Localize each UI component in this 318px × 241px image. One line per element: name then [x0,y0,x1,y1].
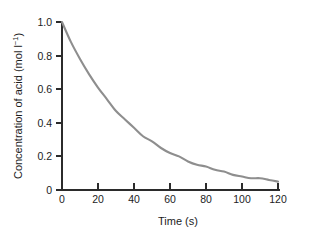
y-tick-label: 0 [46,184,52,196]
y-axis-title-tail: ) [12,33,24,37]
x-tick-label: 0 [59,193,65,205]
x-tick-label: 20 [92,193,104,205]
y-tick-label: 1.0 [37,16,52,28]
y-tick-label: 0.6 [37,83,52,95]
x-tick-label: 120 [269,193,287,205]
x-tick-label: 80 [200,193,212,205]
x-tick-label: 60 [164,193,176,205]
concentration-decay-chart: 0 20 40 60 80 100 120 0 0.2 0.4 0.6 0.8 … [0,0,318,241]
x-tick-label: 100 [233,193,251,205]
y-tick-label: 0.8 [37,50,52,62]
y-axis-title-main: Concentration of acid (mol l [12,45,24,179]
x-axis-title: Time (s) [158,215,198,227]
y-tick-label: 0.2 [37,150,52,162]
y-axis-title: Concentration of acid (mol l−1) [11,33,25,179]
y-tick-label: 0.4 [37,117,52,129]
x-tick-label: 40 [128,193,140,205]
chart-figure: 0 20 40 60 80 100 120 0 0.2 0.4 0.6 0.8 … [0,0,318,241]
y-axis-title-superscript: −1 [11,37,20,46]
